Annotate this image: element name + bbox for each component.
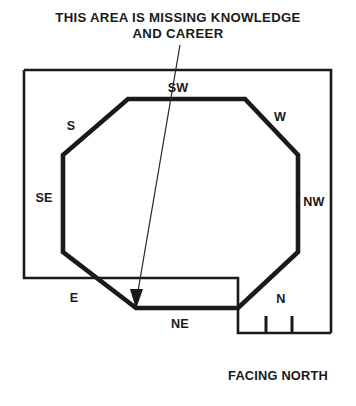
compass-label-se: SE bbox=[35, 191, 52, 205]
annotation-title-line-1: THIS AREA IS MISSING KNOWLEDGE bbox=[55, 10, 300, 25]
compass-label-nw: NW bbox=[303, 195, 324, 209]
compass-label-w: W bbox=[274, 110, 286, 124]
compass-label-s: S bbox=[67, 119, 76, 133]
bagua-octagon bbox=[63, 99, 298, 308]
bagua-floor-plan-diagram: THIS AREA IS MISSING KNOWLEDGE AND CAREE… bbox=[0, 0, 356, 406]
compass-label-n: N bbox=[276, 292, 285, 306]
annotation-title-line-2: AND CAREER bbox=[133, 26, 224, 41]
compass-label-e: E bbox=[70, 291, 79, 305]
compass-label-sw: SW bbox=[168, 81, 189, 95]
compass-label-ne: NE bbox=[171, 317, 189, 331]
facing-north-label: FACING NORTH bbox=[228, 368, 328, 383]
